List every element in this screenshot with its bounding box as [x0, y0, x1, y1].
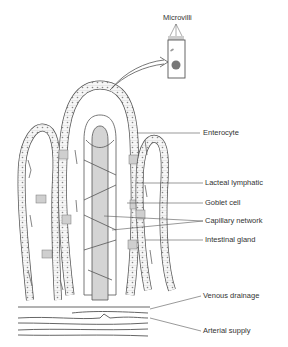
inset-enterocyte — [168, 24, 185, 78]
label-microvilli: Microvilli — [163, 14, 192, 22]
label-lacteal-lymphatic: Lacteal lymphatic — [205, 179, 263, 187]
label-goblet-cell: Goblet cell — [205, 199, 240, 207]
villus-diagram: Microvilli Enterocyte Lacteal lymphatic … — [0, 0, 288, 347]
label-enterocyte: Enterocyte — [203, 129, 239, 137]
main-villus — [59, 85, 139, 300]
left-villus — [22, 128, 58, 300]
base-vessels — [18, 307, 150, 336]
leader-lines — [104, 133, 203, 331]
magnify-arrow — [110, 57, 168, 90]
label-venous-drainage: Venous drainage — [203, 292, 259, 300]
label-capillary-network: Capillary network — [205, 217, 263, 225]
right-villus — [136, 139, 172, 290]
label-intestinal-gland: Intestinal gland — [205, 236, 255, 244]
label-arterial-supply: Arterial supply — [203, 327, 251, 335]
